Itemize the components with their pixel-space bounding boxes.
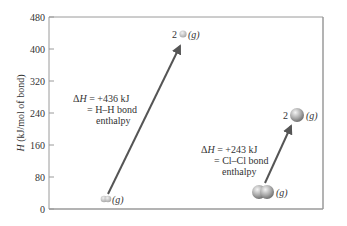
svg-text:enthalpy: enthalpy — [96, 115, 130, 126]
clcl-dissociation: (g) 2 (g) ΔH = +243 kJ = Cl–Cl bond enth… — [201, 108, 318, 199]
y-axis-label: H (kJ/mol of bond) — [15, 75, 27, 153]
svg-text:enthalpy: enthalpy — [222, 166, 256, 177]
svg-text:ΔH = +436 kJ: ΔH = +436 kJ — [73, 93, 129, 104]
y-axis-ticks — [49, 17, 54, 209]
cl2-molecule-icon — [252, 185, 274, 199]
cl-atom-icon — [290, 108, 304, 122]
h-atom-icon — [179, 30, 186, 37]
tick-label-80: 80 — [35, 172, 45, 183]
enthalpy-diagram: 0 80 160 240 320 400 480 H (kJ/mol of bo… — [0, 0, 347, 226]
tick-label-320: 320 — [30, 76, 45, 87]
y-axis-tick-labels: 0 80 160 240 320 400 480 — [30, 12, 45, 215]
tick-label-0: 0 — [40, 204, 45, 215]
h2-molecule-icon — [101, 196, 112, 203]
hh-start-state: (g) — [112, 194, 124, 206]
svg-text:= H–H bond: = H–H bond — [87, 104, 137, 115]
clcl-end-coefficient: 2 — [283, 110, 288, 121]
hh-annotation: ΔH = +436 kJ = H–H bond enthalpy — [73, 93, 137, 126]
clcl-annotation: ΔH = +243 kJ = Cl–Cl bond enthalpy — [201, 144, 269, 177]
hh-dissociation: (g) 2 (g) ΔH = +436 kJ = H–H bond enthal… — [73, 29, 200, 206]
tick-label-400: 400 — [30, 44, 45, 55]
hh-end-state: (g) — [188, 29, 200, 41]
tick-label-160: 160 — [30, 140, 45, 151]
tick-label-480: 480 — [30, 12, 45, 23]
svg-text:ΔH = +243 kJ: ΔH = +243 kJ — [201, 144, 257, 155]
clcl-start-state: (g) — [276, 187, 288, 199]
tick-label-240: 240 — [30, 108, 45, 119]
clcl-end-state: (g) — [306, 110, 318, 122]
svg-text:= Cl–Cl bond: = Cl–Cl bond — [214, 155, 269, 166]
hh-end-coefficient: 2 — [172, 29, 177, 40]
clcl-arrow — [265, 126, 291, 183]
